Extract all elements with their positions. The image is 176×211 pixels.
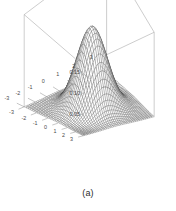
y-tick-mark [70,132,75,134]
x-tick-label: 2 [72,63,75,69]
figure-container: 0.050.100.153210-1-2-3-3-2-10123 (a) [0,0,176,211]
z-tick-label: 0.10 [69,90,80,96]
y-tick-mark [31,113,37,115]
z-tick-label: 0.15 [69,69,80,75]
y-tick-label: 1 [53,128,56,134]
y-tick-mark [62,128,67,130]
x-tick-label: 1 [56,71,59,77]
y-tick-label: 0 [44,124,47,130]
y-tick-label: 2 [62,132,65,138]
figure-caption: (a) [0,188,176,198]
x-tick-mark [28,98,35,102]
x-tick-label: -1 [28,84,33,90]
surface-plot: 0.050.100.153210-1-2-3-3-2-10123 [0,0,176,186]
y-tick-mark [18,107,24,109]
x-tick-label: 3 [90,54,93,60]
z-tick-label: 0.05 [69,111,80,117]
y-tick-mark [42,118,48,120]
x-tick-mark [53,87,60,92]
x-tick-mark [40,93,47,97]
surface-plot-canvas: 0.050.100.153210-1-2-3-3-2-10123 [0,0,176,186]
x-tick-label: -3 [4,95,9,101]
x-tick-label: -2 [16,90,21,96]
y-tick-label: 3 [70,136,73,142]
x-tick-mark [17,103,24,107]
y-tick-label: -2 [22,115,27,121]
y-tick-label: -1 [33,120,38,126]
x-tick-label: 0 [42,78,45,84]
y-tick-label: -3 [9,109,14,115]
y-tick-mark [78,136,83,137]
y-tick-mark [52,123,58,125]
